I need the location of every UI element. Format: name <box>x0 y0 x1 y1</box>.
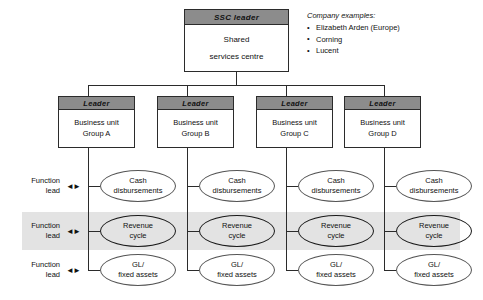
process-line-2: fixed assets <box>316 270 356 280</box>
spine-column-c <box>286 148 287 270</box>
process-line-2: disbursements <box>312 186 361 196</box>
business-unit-header-c: Leader <box>257 97 332 110</box>
company-examples-title: Company examples: <box>307 11 477 20</box>
business-unit-line-1: Business unit <box>74 118 119 129</box>
business-unit-box-a: Leader Business unit Group A <box>58 96 135 148</box>
process-line-1: Revenue <box>419 221 449 231</box>
stub-c-row3 <box>286 270 298 271</box>
function-lead-row-2: Function lead ◄► <box>18 221 80 241</box>
business-unit-body-c: Business unit Group C <box>257 110 332 147</box>
process-node-d-row3: GL/ fixed assets <box>396 254 472 286</box>
business-unit-line-2: Group D <box>368 129 396 140</box>
ssc-leader-line-1: Shared <box>224 34 250 46</box>
process-line-2: cycle <box>327 231 344 241</box>
company-example-item: Lucent <box>307 45 477 57</box>
business-unit-line-1: Business unit <box>272 118 317 129</box>
process-line-2: disbursements <box>410 186 459 196</box>
process-line-1: Revenue <box>222 221 252 231</box>
process-line-2: cycle <box>228 231 245 241</box>
process-node-b-row2: Revenue cycle <box>199 215 275 247</box>
spine-column-b <box>187 148 188 270</box>
connector-bu-drop-c <box>286 85 287 96</box>
connector-bu-drop-b <box>187 85 188 96</box>
process-line-1: Cash <box>129 176 147 186</box>
process-line-1: GL/ <box>231 260 243 270</box>
process-line-1: GL/ <box>428 260 440 270</box>
business-unit-line-2: Group B <box>182 129 210 140</box>
business-unit-line-2: Group C <box>280 129 308 140</box>
process-line-1: Cash <box>327 176 345 186</box>
business-unit-body-b: Business unit Group B <box>158 110 233 147</box>
business-unit-header-d: Leader <box>345 97 420 110</box>
stub-d-row1 <box>384 186 396 187</box>
connector-bu-drop-a <box>88 85 89 96</box>
stub-b-row1 <box>187 186 199 187</box>
function-lead-line-2: lead <box>18 231 60 241</box>
process-node-b-row3: GL/ fixed assets <box>199 254 275 286</box>
process-line-2: cycle <box>425 231 442 241</box>
process-line-2: cycle <box>129 231 146 241</box>
stub-d-row2 <box>384 231 396 232</box>
double-arrow-icon: ◄► <box>66 266 80 275</box>
process-line-2: fixed assets <box>118 270 158 280</box>
process-line-1: Cash <box>425 176 443 186</box>
function-lead-line-2: lead <box>18 186 60 196</box>
stub-c-row1 <box>286 186 298 187</box>
stub-b-row2 <box>187 231 199 232</box>
process-line-1: GL/ <box>132 260 144 270</box>
function-lead-row-3: Function lead ◄► <box>18 260 80 280</box>
function-lead-line-1: Function <box>18 176 60 186</box>
business-unit-box-d: Leader Business unit Group D <box>344 96 421 148</box>
process-node-d-row1: Cash disbursements <box>396 170 472 202</box>
function-lead-line-1: Function <box>18 221 60 231</box>
org-chart-diagram: SSC leader Shared services centre Compan… <box>0 0 483 300</box>
process-line-2: fixed assets <box>414 270 454 280</box>
process-node-a-row2: Revenue cycle <box>100 215 176 247</box>
process-node-c-row3: GL/ fixed assets <box>298 254 374 286</box>
business-unit-line-1: Business unit <box>360 118 405 129</box>
function-lead-text-3: Function lead <box>18 260 60 280</box>
process-line-1: Cash <box>228 176 246 186</box>
spine-column-d <box>384 148 385 270</box>
business-unit-body-a: Business unit Group A <box>59 110 134 147</box>
function-lead-text-2: Function lead <box>18 221 60 241</box>
ssc-leader-header: SSC leader <box>185 10 288 25</box>
stub-a-row1 <box>88 186 100 187</box>
ssc-leader-body: Shared services centre <box>185 25 288 71</box>
double-arrow-icon: ◄► <box>66 182 80 191</box>
stub-a-row3 <box>88 270 100 271</box>
business-unit-box-c: Leader Business unit Group C <box>256 96 333 148</box>
process-node-d-row2: Revenue cycle <box>396 215 472 247</box>
function-lead-text-1: Function lead <box>18 176 60 196</box>
company-examples: Company examples: Elizabeth Arden (Europ… <box>307 11 477 57</box>
process-node-a-row3: GL/ fixed assets <box>100 254 176 286</box>
process-line-2: disbursements <box>213 186 262 196</box>
process-line-2: disbursements <box>114 186 163 196</box>
business-unit-box-b: Leader Business unit Group B <box>157 96 234 148</box>
business-unit-body-d: Business unit Group D <box>345 110 420 147</box>
stub-d-row3 <box>384 270 396 271</box>
company-example-item: Corning <box>307 34 477 46</box>
process-node-b-row1: Cash disbursements <box>199 170 275 202</box>
function-lead-line-1: Function <box>18 260 60 270</box>
process-line-1: Revenue <box>321 221 351 231</box>
company-example-item: Elizabeth Arden (Europe) <box>307 22 477 34</box>
business-unit-header-b: Leader <box>158 97 233 110</box>
process-line-2: fixed assets <box>217 270 257 280</box>
process-node-c-row1: Cash disbursements <box>298 170 374 202</box>
stub-a-row2 <box>88 231 100 232</box>
process-node-c-row2: Revenue cycle <box>298 215 374 247</box>
connector-bu-drop-d <box>384 85 385 96</box>
connector-root-drop <box>236 72 237 86</box>
connector-bus-bar <box>88 85 384 86</box>
business-unit-line-2: Group A <box>83 129 111 140</box>
double-arrow-icon: ◄► <box>66 227 80 236</box>
function-lead-line-2: lead <box>18 270 60 280</box>
function-lead-row-1: Function lead ◄► <box>18 176 80 196</box>
business-unit-header-a: Leader <box>59 97 134 110</box>
company-examples-list: Elizabeth Arden (Europe) Corning Lucent <box>307 22 477 57</box>
stub-b-row3 <box>187 270 199 271</box>
ssc-leader-box: SSC leader Shared services centre <box>184 9 289 72</box>
process-line-1: GL/ <box>330 260 342 270</box>
process-node-a-row1: Cash disbursements <box>100 170 176 202</box>
